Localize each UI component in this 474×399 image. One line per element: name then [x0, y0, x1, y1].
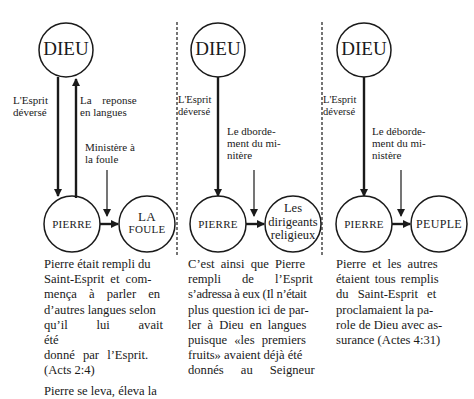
- label-line: Le déborde-: [372, 125, 426, 137]
- para-line: (Acts 2:4): [44, 363, 163, 378]
- node-foule-1-label: LA FOULE: [119, 210, 175, 236]
- para-line: qu’il lui avait été: [44, 318, 163, 348]
- para-line: Saint-Esprit et com-: [44, 272, 163, 287]
- label-debordement-3: Le déborde- ment du mi- nistère: [372, 125, 426, 161]
- para-line: du Saint-Esprit et: [336, 287, 464, 302]
- label-line: Le dborde-: [227, 125, 281, 137]
- label-esprit-deverse-3: L'Esprit déversé: [323, 94, 356, 118]
- label-line: La reponse: [80, 94, 137, 106]
- label-line: L'Esprit: [13, 94, 48, 106]
- node-dirigeants-2-label: Les dirigeants religieux: [264, 202, 322, 243]
- node-pierre-2-label: PIERRE: [190, 218, 246, 230]
- node-dieu-2-label: DIEU: [191, 38, 245, 60]
- para-line: plus question ici de par-: [188, 303, 316, 318]
- label-line: la foule: [85, 153, 135, 165]
- label-line: déversé: [323, 106, 356, 118]
- label-line: L'Esprit: [178, 94, 211, 106]
- label-ministere-foule-1: Ministère à la foule: [85, 141, 135, 165]
- paragraph-col-1: Pierre était rempli du Saint-Esprit et c…: [44, 257, 163, 399]
- paragraph-col-2: C’est ainsi que Pierre rempli de l’Espri…: [188, 257, 316, 379]
- label-line: en langues: [80, 106, 137, 118]
- label-line: nitère: [227, 149, 281, 161]
- para-line: Pierre et les autres: [336, 257, 464, 272]
- para-line: proclamaient la pa-: [336, 303, 464, 318]
- para-line: puisque «les premiers: [188, 333, 316, 348]
- node-pierre-1-label: PIERRE: [44, 218, 100, 230]
- label-line: L'Esprit: [323, 94, 356, 106]
- node-peuple-3-label: PEUPLE: [411, 217, 467, 232]
- label-line: déversé: [13, 106, 48, 118]
- para-line: Pierre se leva, éleva la: [44, 384, 163, 399]
- label-line: déversé: [178, 106, 211, 118]
- para-line: role de Dieu avec as-: [336, 318, 464, 333]
- para-line: s’adressa à eux (Il n’était: [188, 287, 316, 302]
- label-esprit-deverse-2: L'Esprit déversé: [178, 94, 211, 118]
- label-line: ment du mi-: [227, 137, 281, 149]
- para-line: C’est ainsi que Pierre: [188, 257, 316, 272]
- paragraph-col-3: Pierre et les autres étaient tous rempli…: [336, 257, 464, 348]
- foule-line-2: FOULE: [119, 223, 175, 236]
- para-line: fruits» avaient déjà été: [188, 348, 316, 363]
- para-line: surance (Actes 4:31): [336, 333, 464, 348]
- label-line: nistère: [372, 149, 426, 161]
- para-line: Pierre était rempli du: [44, 257, 163, 272]
- label-debordement-2: Le dborde- ment du mi- nitère: [227, 125, 281, 161]
- node-dieu-3-label: DIEU: [337, 38, 391, 60]
- node-pierre-3-label: PIERRE: [336, 218, 392, 230]
- para-line: ler à Dieu en langues: [188, 318, 316, 333]
- para-line: étaient tous remplis: [336, 272, 464, 287]
- label-reponse-langues-1: La reponse en langues: [80, 94, 137, 118]
- label-line: Ministère à: [85, 141, 135, 153]
- label-line: Les: [264, 202, 322, 216]
- para-line: donnés au Seigneur: [188, 363, 316, 378]
- label-line: dirigeants: [264, 216, 322, 230]
- label-line: ment du mi-: [372, 137, 426, 149]
- para-line: mença à parler en: [44, 287, 163, 302]
- para-line: rempli de l’Esprit: [188, 272, 316, 287]
- foule-line-1: LA: [119, 210, 175, 223]
- label-line: religieux: [264, 229, 322, 243]
- para-line: d’autres langues selon: [44, 303, 163, 318]
- node-dieu-1-label: DIEU: [39, 38, 93, 60]
- para-line: donné par l’Esprit.: [44, 348, 163, 363]
- label-esprit-deverse-1: L'Esprit déversé: [13, 94, 48, 118]
